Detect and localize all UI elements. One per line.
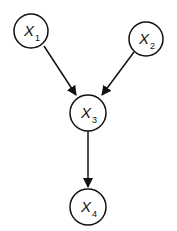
svg-text:X: X [23, 22, 35, 39]
svg-text:X: X [138, 30, 150, 47]
svg-text:X: X [80, 104, 92, 121]
svg-text:3: 3 [92, 115, 97, 125]
svg-text:1: 1 [35, 33, 40, 43]
node-x3: X 3 [70, 95, 106, 131]
svg-text:X: X [80, 198, 92, 215]
node-x4: X 4 [70, 189, 106, 225]
node-x2: X 2 [129, 22, 163, 56]
edge-x2-x3 [102, 52, 134, 95]
svg-text:2: 2 [150, 41, 155, 51]
edge-x1-x3 [44, 46, 76, 95]
node-x1: X 1 [14, 14, 48, 48]
bayesian-network-diagram: X 1 X 2 X 3 X 4 [0, 0, 177, 231]
svg-text:4: 4 [92, 209, 97, 219]
